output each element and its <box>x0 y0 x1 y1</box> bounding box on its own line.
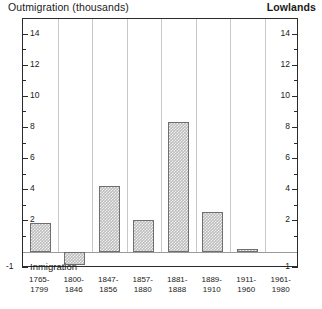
y-tick <box>22 65 28 66</box>
bar-1765-1799 <box>30 223 51 253</box>
x-axis-label-line: 1911- <box>229 275 264 285</box>
x-axis-label-line: 1910 <box>195 285 230 295</box>
x-axis-label-line: 1889- <box>195 275 230 285</box>
x-axis-label-1857-1880: 1857-1880 <box>126 275 161 295</box>
x-axis-label-1889-1910: 1889-1910 <box>195 275 230 295</box>
x-axis-label-line: 1857- <box>126 275 161 285</box>
y-tick <box>22 80 26 81</box>
x-axis-label-1911-1960: 1911-1960 <box>229 275 264 295</box>
y-tick <box>294 18 298 19</box>
x-axis-label-1765-1799: 1765-1799 <box>22 275 57 295</box>
plot-area <box>23 19 297 266</box>
gridline-vertical <box>92 19 93 252</box>
y-tick <box>294 143 298 144</box>
y-tick-label: 4 <box>276 184 290 193</box>
x-axis-label-line: 1960 <box>229 285 264 295</box>
chart-title-left: Outmigration (thousands) <box>8 1 129 13</box>
y-tick <box>292 267 298 268</box>
y-tick <box>22 205 26 206</box>
gridline-vertical <box>265 19 266 252</box>
x-axis-label-line: 1847- <box>91 275 126 285</box>
bar-1889-1910 <box>202 212 223 252</box>
chart-title-right: Lowlands <box>267 1 316 13</box>
y-tick-label: 8 <box>30 122 35 131</box>
bar-1881-1888 <box>168 122 189 253</box>
y-tick <box>292 96 298 97</box>
y-tick <box>22 267 28 268</box>
y-tick <box>22 174 26 175</box>
y-tick-label: 4 <box>30 184 35 193</box>
y-tick-label: 10 <box>30 91 39 100</box>
y-tick <box>294 80 298 81</box>
gridline-vertical <box>230 19 231 252</box>
x-axis-label-1800-1846: 1800-1846 <box>57 275 92 295</box>
y-tick <box>294 174 298 175</box>
y-tick <box>292 127 298 128</box>
x-axis-label-line: 1765- <box>22 275 57 285</box>
y-tick <box>294 49 298 50</box>
y-tick <box>22 127 28 128</box>
bar-1911-1960 <box>237 249 258 252</box>
x-axis-label-line: 1881- <box>160 275 195 285</box>
inmigration-caption: Inmigration <box>30 261 77 272</box>
x-axis-labels: 1765-17991800-18461847-18561857-18801881… <box>22 275 298 305</box>
y-tick <box>22 189 28 190</box>
bar-1857-1880 <box>133 220 154 253</box>
y-tick <box>22 158 28 159</box>
x-axis-label-line: 1888 <box>160 285 195 295</box>
x-axis-label-1847-1856: 1847-1856 <box>91 275 126 295</box>
plot-frame <box>22 18 298 267</box>
y-tick <box>292 158 298 159</box>
x-axis-label-line: 1961- <box>264 275 299 285</box>
y-tick-label: 14 <box>276 29 290 38</box>
y-tick-label: 12 <box>30 60 39 69</box>
y-tick <box>22 34 28 35</box>
x-axis-label-1961-1980: 1961-1980 <box>264 275 299 295</box>
y-tick-label-negative: -1 <box>6 262 14 271</box>
y-tick-label-negative: -1 <box>276 262 290 271</box>
y-tick <box>294 236 298 237</box>
x-axis-label-line: 1846 <box>57 285 92 295</box>
y-tick-label: 12 <box>276 60 290 69</box>
gridline-vertical <box>127 19 128 252</box>
y-tick-label: 2 <box>30 215 35 224</box>
y-tick-label: 10 <box>276 91 290 100</box>
y-tick <box>22 96 28 97</box>
y-tick <box>22 49 26 50</box>
y-tick <box>292 34 298 35</box>
y-tick-label: 14 <box>30 29 39 38</box>
y-tick-label: 2 <box>276 215 290 224</box>
x-axis-label-line: 1880 <box>126 285 161 295</box>
x-axis-label-1881-1888: 1881-1888 <box>160 275 195 295</box>
y-tick-label: 8 <box>276 122 290 131</box>
bar-1847-1856 <box>99 186 120 253</box>
chart-figure: Outmigration (thousands) Lowlands 246810… <box>0 0 322 309</box>
y-tick <box>22 143 26 144</box>
y-tick <box>294 205 298 206</box>
gridline-vertical <box>58 19 59 252</box>
x-axis-label-line: 1799 <box>22 285 57 295</box>
y-tick <box>292 65 298 66</box>
x-axis-label-line: 1800- <box>57 275 92 285</box>
y-tick-label: 6 <box>276 153 290 162</box>
x-axis-label-line: 1980 <box>264 285 299 295</box>
gridline-vertical <box>161 19 162 252</box>
gridline-vertical <box>196 19 197 252</box>
y-tick <box>22 236 26 237</box>
y-tick <box>294 111 298 112</box>
y-tick-label: 6 <box>30 153 35 162</box>
y-tick <box>22 111 26 112</box>
x-axis-label-line: 1856 <box>91 285 126 295</box>
y-tick <box>22 220 28 221</box>
y-tick <box>292 220 298 221</box>
y-tick <box>22 18 26 19</box>
y-tick <box>292 189 298 190</box>
